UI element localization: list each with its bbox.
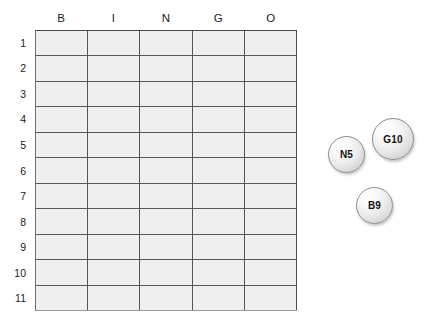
grid-cell-g-8[interactable] <box>193 209 245 233</box>
grid-cell-i-2[interactable] <box>88 56 140 80</box>
grid-cell-i-3[interactable] <box>88 82 140 106</box>
grid-cell-o-11[interactable] <box>245 286 297 310</box>
grid-cell-n-4[interactable] <box>140 107 192 131</box>
grid-cell-n-9[interactable] <box>140 235 192 259</box>
grid-cell-g-2[interactable] <box>193 56 245 80</box>
grid-cell-i-9[interactable] <box>88 235 140 259</box>
grid-cell-n-5[interactable] <box>140 133 192 157</box>
bingo-board: B I N G O 1 2 3 4 5 6 7 8 9 10 11 <box>0 0 300 330</box>
grid-cell-i-8[interactable] <box>88 209 140 233</box>
grid-cell-i-6[interactable] <box>88 158 140 182</box>
grid-cell-n-8[interactable] <box>140 209 192 233</box>
grid-row <box>36 235 297 260</box>
row-label-8: 8 <box>0 209 31 235</box>
column-header-row: B I N G O <box>35 10 297 27</box>
row-label-6: 6 <box>0 158 31 184</box>
row-label-1: 1 <box>0 30 31 56</box>
grid-cell-b-7[interactable] <box>36 184 88 208</box>
grid-row <box>36 209 297 234</box>
row-label-4: 4 <box>0 107 31 133</box>
number-token-label: B9 <box>368 200 381 211</box>
grid-cell-g-10[interactable] <box>193 260 245 284</box>
column-header-n: N <box>140 10 192 27</box>
grid-cell-n-6[interactable] <box>140 158 192 182</box>
grid-cell-b-5[interactable] <box>36 133 88 157</box>
grid-cell-g-4[interactable] <box>193 107 245 131</box>
grid-cell-g-7[interactable] <box>193 184 245 208</box>
grid-cell-o-6[interactable] <box>245 158 297 182</box>
grid-cell-o-8[interactable] <box>245 209 297 233</box>
grid-cell-o-1[interactable] <box>245 31 297 55</box>
grid-cell-g-9[interactable] <box>193 235 245 259</box>
grid-cell-b-6[interactable] <box>36 158 88 182</box>
grid-cell-n-10[interactable] <box>140 260 192 284</box>
grid-row <box>36 56 297 81</box>
bingo-grid <box>35 30 297 311</box>
column-header-b: B <box>35 10 87 27</box>
grid-cell-b-8[interactable] <box>36 209 88 233</box>
column-header-i: I <box>87 10 139 27</box>
grid-cell-i-4[interactable] <box>88 107 140 131</box>
grid-cell-n-1[interactable] <box>140 31 192 55</box>
number-token-n5[interactable]: N5 <box>328 136 365 173</box>
grid-cell-n-2[interactable] <box>140 56 192 80</box>
number-token-b9[interactable]: B9 <box>356 187 393 224</box>
grid-row <box>36 184 297 209</box>
grid-cell-g-3[interactable] <box>193 82 245 106</box>
grid-cell-b-2[interactable] <box>36 56 88 80</box>
grid-cell-n-11[interactable] <box>140 286 192 310</box>
grid-cell-o-3[interactable] <box>245 82 297 106</box>
number-token-label: G10 <box>383 134 403 145</box>
grid-cell-i-11[interactable] <box>88 286 140 310</box>
grid-cell-o-5[interactable] <box>245 133 297 157</box>
grid-row <box>36 286 297 311</box>
row-label-5: 5 <box>0 132 31 158</box>
number-token-label: N5 <box>340 149 353 160</box>
grid-row <box>36 107 297 132</box>
row-label-9: 9 <box>0 234 31 260</box>
row-label-2: 2 <box>0 56 31 82</box>
grid-row <box>36 133 297 158</box>
grid-row <box>36 260 297 285</box>
grid-cell-i-7[interactable] <box>88 184 140 208</box>
grid-cell-b-11[interactable] <box>36 286 88 310</box>
grid-row <box>36 31 297 56</box>
column-header-g: G <box>192 10 244 27</box>
grid-cell-i-5[interactable] <box>88 133 140 157</box>
grid-cell-o-10[interactable] <box>245 260 297 284</box>
grid-cell-i-10[interactable] <box>88 260 140 284</box>
grid-row <box>36 82 297 107</box>
row-label-10: 10 <box>0 260 31 286</box>
grid-cell-b-1[interactable] <box>36 31 88 55</box>
grid-cell-g-11[interactable] <box>193 286 245 310</box>
grid-cell-o-4[interactable] <box>245 107 297 131</box>
grid-row <box>36 158 297 183</box>
grid-cell-g-1[interactable] <box>193 31 245 55</box>
grid-cell-b-9[interactable] <box>36 235 88 259</box>
grid-cell-g-6[interactable] <box>193 158 245 182</box>
row-label-3: 3 <box>0 81 31 107</box>
grid-cell-o-2[interactable] <box>245 56 297 80</box>
bingo-workspace: B I N G O 1 2 3 4 5 6 7 8 9 10 11 G10N5B… <box>0 0 430 330</box>
column-header-o: O <box>245 10 297 27</box>
grid-cell-b-10[interactable] <box>36 260 88 284</box>
grid-cell-b-3[interactable] <box>36 82 88 106</box>
number-token-g10[interactable]: G10 <box>372 118 414 160</box>
row-label-11: 11 <box>0 285 31 311</box>
grid-cell-o-9[interactable] <box>245 235 297 259</box>
row-label-column: 1 2 3 4 5 6 7 8 9 10 11 <box>0 30 31 311</box>
grid-cell-i-1[interactable] <box>88 31 140 55</box>
grid-cell-n-7[interactable] <box>140 184 192 208</box>
grid-cell-g-5[interactable] <box>193 133 245 157</box>
grid-cell-n-3[interactable] <box>140 82 192 106</box>
grid-cell-b-4[interactable] <box>36 107 88 131</box>
row-label-7: 7 <box>0 183 31 209</box>
grid-cell-o-7[interactable] <box>245 184 297 208</box>
